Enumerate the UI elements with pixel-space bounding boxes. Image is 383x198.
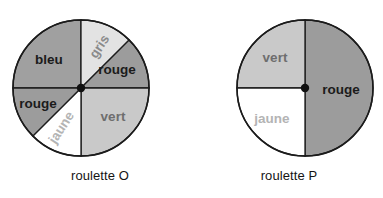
sector-label-rouge-lower: rouge [19, 96, 57, 111]
caption-roulette-o: roulette O [0, 168, 200, 183]
sector-label-jaune: jaune [253, 111, 290, 126]
spinner-roulette-o: bleu gris rouge vert jaune rouge roulett… [0, 0, 200, 168]
figure-canvas: bleu gris rouge vert jaune rouge roulett… [0, 0, 383, 198]
roulette-o-svg: bleu gris rouge vert jaune rouge [0, 0, 200, 168]
sector-label-vert: vert [263, 50, 288, 65]
sector-label-vert: vert [101, 109, 126, 124]
hub-dot [77, 84, 85, 92]
spinner-roulette-p: rouge vert jaune roulette P [195, 0, 383, 168]
sector-label-rouge: rouge [322, 82, 360, 97]
caption-roulette-p: roulette P [195, 168, 383, 183]
sector-label-bleu: bleu [35, 52, 63, 67]
hub-dot [301, 84, 309, 92]
roulette-p-svg: rouge vert jaune [195, 0, 383, 168]
sector-label-rouge-upper: rouge [98, 62, 136, 77]
